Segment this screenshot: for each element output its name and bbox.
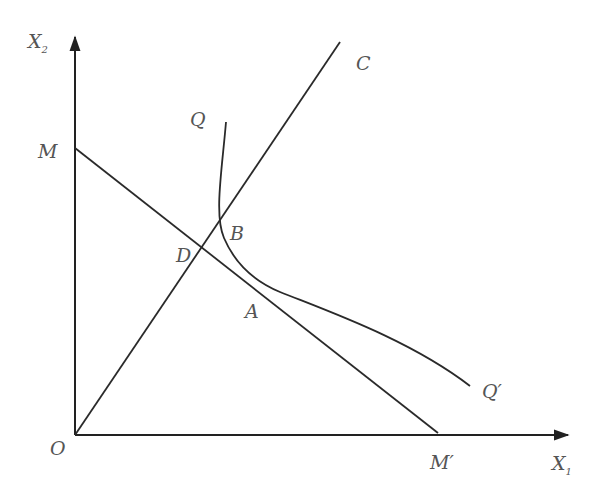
point-label-Q-prime: Q′: [482, 380, 503, 402]
expansion-ray-OC: [75, 42, 340, 435]
origin-label-O: O: [50, 437, 66, 459]
isoquant-diagram: X2 X1 O M M′ C Q Q′ B D A: [0, 0, 598, 500]
isoquant-curve-QQ-prime: [219, 122, 470, 386]
point-label-C: C: [356, 52, 371, 74]
x-axis-label: X1: [550, 452, 572, 477]
point-label-B: B: [229, 222, 244, 244]
isocost-line-MM-prime: [75, 148, 438, 433]
point-label-A: A: [243, 300, 259, 322]
point-label-D: D: [175, 244, 191, 266]
y-axis-label: X2: [26, 30, 48, 55]
point-label-M: M: [37, 140, 58, 162]
point-label-Q: Q: [190, 108, 206, 130]
point-label-M-prime: M′: [429, 451, 454, 473]
